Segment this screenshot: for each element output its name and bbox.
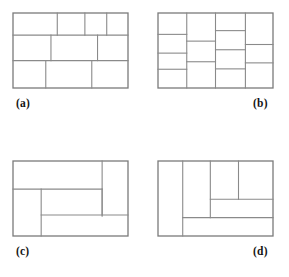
panel-a-label: (a): [16, 98, 30, 110]
panel-b-diagram: [156, 11, 275, 90]
panel-c-diagram: [11, 159, 130, 238]
panel-c-label: (c): [16, 246, 29, 258]
panel-d-partition-svg: [156, 159, 275, 238]
panel-a-outer-frame: [13, 13, 128, 88]
panel-c-partition-svg: [11, 159, 130, 238]
panel-a-diagram: [11, 11, 130, 90]
panel-d-outer-frame: [158, 161, 273, 236]
panel-d-diagram: [156, 159, 275, 238]
panel-a-partition-svg: [11, 11, 130, 90]
figure-sheet: (a)(b)(c)(d): [0, 0, 289, 277]
panel-b-label: (b): [253, 98, 268, 110]
panel-c-outer-frame: [13, 161, 128, 236]
panel-d-label: (d): [253, 246, 268, 258]
panel-b-partition-svg: [156, 11, 275, 90]
